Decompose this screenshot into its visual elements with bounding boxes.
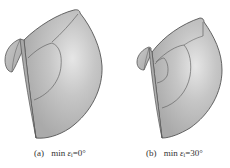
- caption-a-label: (a): [34, 148, 44, 158]
- panel-a-shape: [5, 10, 102, 138]
- panel-b-shape: [137, 18, 222, 138]
- panel-a-shell: [24, 10, 102, 138]
- figure-illustrations: [0, 0, 230, 145]
- caption-b: (b) min εi=30°: [146, 148, 203, 158]
- caption-a-prefix: min: [51, 148, 65, 158]
- panel-a-flap: [5, 39, 22, 72]
- caption-b-value: 30°: [190, 148, 203, 158]
- caption-b-label: (b): [146, 148, 157, 158]
- panel-b-shell: [152, 18, 222, 138]
- caption-a: (a) min εi=0°: [34, 148, 86, 158]
- caption-a-value: 0°: [78, 148, 86, 158]
- caption-b-prefix: min: [164, 148, 178, 158]
